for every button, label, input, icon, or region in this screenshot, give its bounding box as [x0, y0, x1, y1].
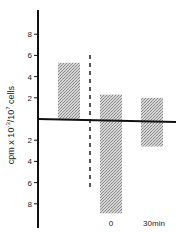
y-tick-label: 2	[28, 136, 33, 145]
x-tick-label: 0	[109, 219, 114, 228]
y-tick-label: 6	[28, 179, 33, 188]
y-axis-label: cpm x 10-3/107 cells	[5, 86, 16, 164]
x-tick-labels-group: 030min	[109, 219, 165, 228]
bar-chart: 24682468 030min	[0, 0, 183, 232]
y-tick-label: 8	[28, 30, 33, 39]
y-tick-label: 2	[28, 94, 33, 103]
bar-0	[100, 95, 122, 214]
bars-group	[58, 63, 163, 214]
x-tick-label: 30min	[143, 219, 165, 228]
y-tick-label: 8	[28, 200, 33, 209]
y-ticks-group: 24682468	[28, 30, 38, 209]
chart-container: 24682468 030min cpm x 10-3/107 cells	[0, 0, 183, 232]
bar-baseline	[58, 63, 80, 119]
y-tick-label: 4	[28, 157, 33, 166]
y-tick-label: 6	[28, 51, 33, 60]
y-tick-label: 4	[28, 73, 33, 82]
